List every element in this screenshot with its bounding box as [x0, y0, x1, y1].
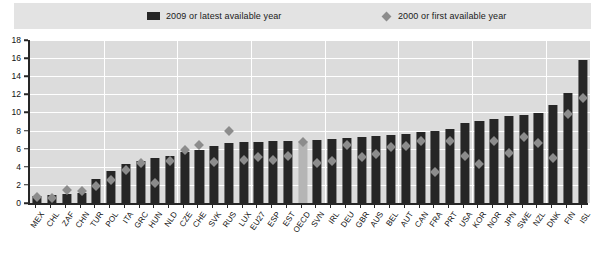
x-tick-mark	[566, 205, 567, 208]
bar-group	[207, 40, 222, 203]
bar-group	[325, 40, 340, 203]
x-tick-label: SVK	[207, 210, 224, 229]
x-tick-mark	[109, 205, 110, 208]
plot-area	[28, 40, 590, 203]
x-tick-label: GRC	[132, 210, 150, 230]
x-tick-label: PRT	[443, 210, 460, 228]
bar-group	[575, 40, 590, 203]
bar	[313, 140, 322, 203]
x-tick-mark	[389, 205, 390, 208]
y-tick-label: 0	[16, 198, 21, 208]
x-tick-mark	[330, 205, 331, 208]
bar-group	[104, 40, 119, 203]
bar-group	[133, 40, 148, 203]
x-tick-mark	[433, 205, 434, 208]
x-tick-mark	[404, 205, 405, 208]
x-tick-label: USA	[457, 210, 474, 229]
legend-entry-series2: 2000 or first available year	[381, 11, 506, 21]
bar-group	[457, 40, 472, 203]
x-tick-mark	[448, 205, 449, 208]
y-tick-label: 16	[12, 53, 21, 63]
x-tick-mark	[256, 205, 257, 208]
bar-group	[369, 40, 384, 203]
bar-group	[354, 40, 369, 203]
x-tick-label: BEL	[384, 210, 400, 228]
x-tick-mark	[153, 205, 154, 208]
bar	[534, 113, 543, 203]
x-tick-label: KOR	[471, 210, 488, 230]
bar	[298, 141, 307, 203]
bar-group	[30, 40, 45, 203]
x-tick-mark	[286, 205, 287, 208]
x-tick-mark	[345, 205, 346, 208]
bar	[210, 146, 219, 203]
bar-group	[339, 40, 354, 203]
bar-group	[236, 40, 251, 203]
x-tick-mark	[477, 205, 478, 208]
y-axis: 024681012141618	[0, 40, 28, 203]
y-tick-label: 10	[12, 107, 21, 117]
x-tick-label: ISL	[578, 210, 592, 225]
legend-label-series1: 2009 or latest available year	[166, 11, 281, 21]
bar-group	[163, 40, 178, 203]
x-tick-label: CAN	[413, 210, 430, 229]
bar	[224, 143, 233, 203]
x-tick-label: DEU	[339, 210, 356, 229]
bar	[372, 136, 381, 203]
x-axis: MEXCHLZAFCHNTURPOLITAGRCHUNNLDCZECHESVKR…	[28, 205, 588, 259]
x-tick-mark	[360, 205, 361, 208]
bar-group	[443, 40, 458, 203]
x-tick-label: CHE	[192, 210, 209, 229]
x-tick-mark	[374, 205, 375, 208]
x-tick-mark	[581, 205, 582, 208]
filled-diamond-icon	[382, 11, 392, 21]
bar-group	[222, 40, 237, 203]
bars-layer	[30, 40, 590, 203]
x-tick-mark	[197, 205, 198, 208]
x-tick-label: FIN	[562, 210, 577, 226]
filled-square-icon	[147, 12, 160, 20]
x-tick-mark	[242, 205, 243, 208]
bar-group	[516, 40, 531, 203]
x-tick-mark	[168, 205, 169, 208]
legend-entry-series1: 2009 or latest available year	[147, 11, 281, 21]
bar-group	[428, 40, 443, 203]
x-tick-mark	[315, 205, 316, 208]
x-tick-mark	[507, 205, 508, 208]
x-tick-mark	[463, 205, 464, 208]
x-tick-mark	[50, 205, 51, 208]
x-tick-label: GBR	[353, 210, 370, 230]
x-tick-label: SVN	[310, 210, 327, 229]
x-tick-label: AUT	[398, 210, 415, 229]
x-tick-label: HUN	[147, 210, 164, 230]
bar	[578, 60, 587, 203]
bar-group	[59, 40, 74, 203]
bar	[504, 116, 513, 203]
y-tick-label: 18	[12, 35, 21, 45]
bar-group	[561, 40, 576, 203]
y-tick-label: 4	[16, 162, 21, 172]
bar-group	[546, 40, 561, 203]
bar-group	[177, 40, 192, 203]
y-tick-label: 12	[12, 89, 21, 99]
x-tick-mark	[35, 205, 36, 208]
y-tick-label: 2	[16, 180, 21, 190]
x-tick-label: NZL	[532, 210, 548, 228]
bar-group	[118, 40, 133, 203]
bar-group	[192, 40, 207, 203]
bar	[519, 115, 528, 203]
legend-label-series2: 2000 or first available year	[398, 11, 506, 21]
x-tick-mark	[94, 205, 95, 208]
x-tick-mark	[212, 205, 213, 208]
y-tick-label: 14	[12, 71, 21, 81]
bar-group	[281, 40, 296, 203]
y-tick-label: 8	[16, 126, 21, 136]
bar	[254, 142, 263, 203]
bar-group	[472, 40, 487, 203]
x-tick-label: MEX	[29, 210, 46, 230]
x-tick-mark	[536, 205, 537, 208]
bar	[195, 150, 204, 203]
bar-group	[295, 40, 310, 203]
bar-group	[148, 40, 163, 203]
x-tick-label: CZE	[177, 210, 194, 229]
